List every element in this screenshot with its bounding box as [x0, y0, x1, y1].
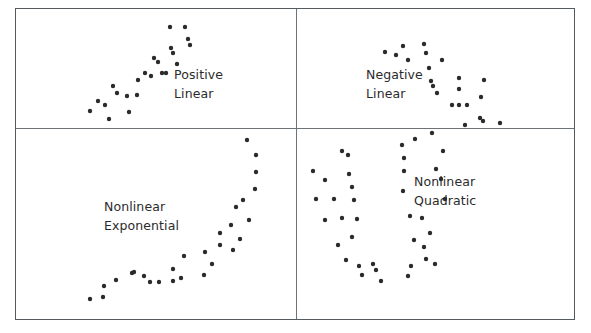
plot-frame: Positive Linear Negative Linear Nonlinea…: [15, 8, 575, 320]
scatter-point: [457, 76, 461, 80]
scatter-point: [314, 197, 318, 201]
scatter-point: [164, 71, 168, 75]
scatter-points-positive-linear: [17, 10, 296, 128]
scatter-point: [143, 71, 147, 75]
scatter-point: [482, 78, 486, 82]
scatter-point: [340, 216, 344, 220]
scatter-point: [245, 138, 249, 142]
scatter-point: [253, 187, 257, 191]
scatter-point: [218, 231, 222, 235]
scatter-point: [406, 58, 410, 62]
scatter-points-nonlinear-quadratic: [297, 129, 574, 319]
scatter-point: [441, 149, 445, 153]
scatter-point: [238, 237, 242, 241]
scatter-point: [241, 198, 245, 202]
scatter-point: [88, 297, 92, 301]
scatter-point: [427, 66, 431, 70]
panel-label-line: Nonlinear: [414, 172, 476, 191]
panel-label-line: Negative: [366, 65, 423, 84]
scatter-point: [171, 279, 175, 283]
panel-label-line: Exponential: [104, 216, 179, 235]
scatter-point: [413, 137, 417, 141]
scatterplot-figure: Positive Linear Negative Linear Nonlinea…: [0, 0, 591, 333]
scatter-point: [202, 273, 206, 277]
scatter-point: [148, 280, 152, 284]
scatter-point: [450, 103, 454, 107]
scatter-point: [422, 245, 426, 249]
panel-label-line: Quadratic: [414, 191, 476, 210]
scatter-point: [336, 243, 340, 247]
scatter-point: [210, 262, 214, 266]
scatter-point: [400, 143, 404, 147]
scatter-point: [409, 264, 413, 268]
scatter-point: [182, 254, 186, 258]
scatter-point: [340, 149, 344, 153]
panel-label-nonlinear-exponential: Nonlinear Exponential: [104, 197, 179, 235]
scatter-point: [179, 276, 183, 280]
panel-label-nonlinear-quadratic: Nonlinear Quadratic: [414, 172, 476, 210]
scatter-point: [424, 51, 428, 55]
scatter-point: [142, 274, 146, 278]
scatter-point: [430, 131, 434, 135]
scatter-point: [169, 46, 173, 50]
scatter-point: [160, 71, 164, 75]
panel-label-negative-linear: Negative Linear: [366, 65, 423, 103]
scatter-point: [463, 123, 467, 127]
scatter-point: [115, 91, 119, 95]
scatter-point: [428, 231, 432, 235]
scatter-point: [350, 185, 354, 189]
scatter-point: [149, 74, 153, 78]
scatter-point: [420, 216, 424, 220]
scatter-point: [401, 44, 405, 48]
scatter-point: [479, 95, 483, 99]
scatter-point: [132, 270, 136, 274]
scatter-point: [424, 257, 428, 261]
scatter-point: [422, 42, 426, 46]
scatter-point: [346, 153, 350, 157]
scatter-point: [352, 198, 356, 202]
scatter-point: [402, 156, 406, 160]
scatter-point: [127, 110, 131, 114]
scatter-point: [171, 267, 175, 271]
scatter-point: [102, 284, 106, 288]
scatter-point: [88, 109, 92, 113]
scatter-point: [103, 103, 107, 107]
panel-negative-linear: [297, 10, 574, 128]
scatter-point: [229, 223, 233, 227]
scatter-point: [406, 274, 410, 278]
scatter-point: [114, 278, 118, 282]
scatter-point: [383, 50, 387, 54]
scatter-point: [344, 258, 348, 262]
scatter-point: [323, 218, 327, 222]
scatter-point: [157, 280, 161, 284]
scatter-point: [323, 178, 327, 182]
scatter-point: [168, 25, 172, 29]
scatter-point: [135, 93, 139, 97]
scatter-point: [429, 79, 433, 83]
scatter-point: [107, 117, 111, 121]
panel-positive-linear: [17, 10, 296, 128]
scatter-point: [101, 295, 105, 299]
panel-label-line: Linear: [174, 84, 223, 103]
scatter-point: [350, 235, 354, 239]
scatter-point: [332, 197, 336, 201]
scatter-point: [355, 217, 359, 221]
panel-label-line: Nonlinear: [104, 197, 179, 216]
scatter-point: [434, 167, 438, 171]
scatter-point: [203, 250, 207, 254]
scatter-point: [152, 56, 156, 60]
scatter-point: [374, 268, 378, 272]
scatter-point: [96, 99, 100, 103]
scatter-points-negative-linear: [297, 10, 574, 128]
scatter-point: [125, 94, 129, 98]
scatter-point: [440, 58, 444, 62]
scatter-point: [171, 51, 175, 55]
scatter-point: [234, 205, 238, 209]
scatter-point: [357, 264, 361, 268]
scatter-point: [457, 103, 461, 107]
scatter-point: [371, 262, 375, 266]
scatter-point: [401, 189, 405, 193]
scatter-point: [457, 87, 461, 91]
scatter-point: [433, 262, 437, 266]
scatter-point: [254, 153, 258, 157]
